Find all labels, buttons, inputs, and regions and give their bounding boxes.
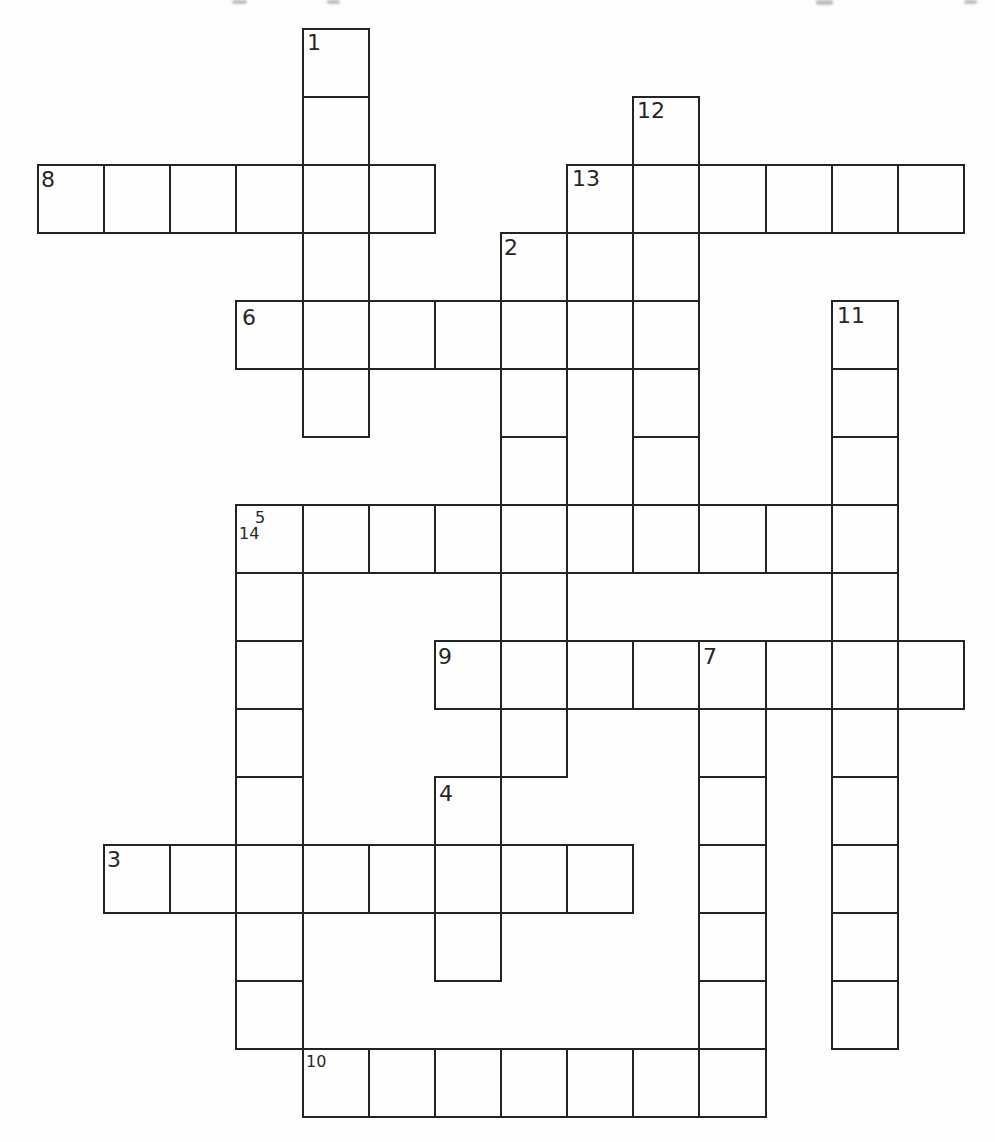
grid-cell-c10-r14[interactable] bbox=[698, 980, 767, 1050]
grid-cell-c12-r9[interactable] bbox=[831, 640, 899, 710]
grid-cell-c8-r15[interactable] bbox=[566, 1048, 634, 1118]
grid-cell-c1-r2[interactable] bbox=[103, 164, 171, 234]
grid-cell-c10-r15[interactable] bbox=[698, 1048, 767, 1118]
grid-cell-c6-r13[interactable] bbox=[434, 912, 502, 982]
grid-cell-c7-r12[interactable] bbox=[500, 844, 568, 914]
crossword-page: 1234567891011121314 bbox=[0, 0, 995, 1142]
grid-cell-c4-r2[interactable] bbox=[302, 164, 370, 234]
grid-cell-c3-r2[interactable] bbox=[235, 164, 304, 234]
grid-cell-c9-r2[interactable] bbox=[632, 164, 700, 234]
grid-cell-c4-r7[interactable] bbox=[302, 504, 370, 574]
grid-cell-c12-r2[interactable] bbox=[831, 164, 899, 234]
grid-cell-c7-r6[interactable] bbox=[500, 436, 568, 506]
clue-number-8: 8 bbox=[41, 169, 55, 191]
grid-cell-c12-r11[interactable] bbox=[831, 776, 899, 846]
grid-cell-c12-r12[interactable] bbox=[831, 844, 899, 914]
grid-cell-c5-r2[interactable] bbox=[368, 164, 436, 234]
grid-cell-c3-r9[interactable] bbox=[235, 640, 304, 710]
grid-cell-c12-r5[interactable] bbox=[831, 368, 899, 438]
grid-cell-c8-r12[interactable] bbox=[566, 844, 634, 914]
grid-cell-c9-r4[interactable] bbox=[632, 300, 700, 370]
grid-cell-c12-r7[interactable] bbox=[831, 504, 899, 574]
clue-number-3: 3 bbox=[107, 849, 121, 871]
grid-cell-c6-r4[interactable] bbox=[434, 300, 502, 370]
grid-cell-c13-r9[interactable] bbox=[897, 640, 965, 710]
grid-cell-c12-r14[interactable] bbox=[831, 980, 899, 1050]
grid-cell-c10-r2[interactable] bbox=[698, 164, 767, 234]
grid-cell-c8-r4[interactable] bbox=[566, 300, 634, 370]
grid-cell-c11-r7[interactable] bbox=[765, 504, 833, 574]
grid-cell-c7-r10[interactable] bbox=[500, 708, 568, 778]
scan-artifact-1 bbox=[232, 0, 247, 4]
grid-cell-c10-r10[interactable] bbox=[698, 708, 767, 778]
clue-number-2: 2 bbox=[504, 237, 518, 259]
scan-artifact-2 bbox=[327, 0, 340, 4]
clue-number-9: 9 bbox=[438, 646, 452, 668]
grid-cell-c8-r7[interactable] bbox=[566, 504, 634, 574]
grid-cell-c12-r6[interactable] bbox=[831, 436, 899, 506]
grid-cell-c9-r5[interactable] bbox=[632, 368, 700, 438]
grid-cell-c7-r15[interactable] bbox=[500, 1048, 568, 1118]
clue-number-11: 11 bbox=[837, 305, 865, 327]
grid-cell-c9-r6[interactable] bbox=[632, 436, 700, 506]
grid-cell-c6-r7[interactable] bbox=[434, 504, 502, 574]
grid-cell-c3-r11[interactable] bbox=[235, 776, 304, 846]
grid-cell-c6-r15[interactable] bbox=[434, 1048, 502, 1118]
grid-cell-c3-r13[interactable] bbox=[235, 912, 304, 982]
grid-cell-c5-r7[interactable] bbox=[368, 504, 436, 574]
scan-artifact-4 bbox=[964, 0, 977, 4]
grid-cell-c13-r2[interactable] bbox=[897, 164, 965, 234]
grid-cell-c12-r8[interactable] bbox=[831, 572, 899, 642]
grid-cell-c8-r9[interactable] bbox=[566, 640, 634, 710]
clue-number-14: 14 bbox=[239, 526, 259, 542]
grid-cell-c4-r1[interactable] bbox=[302, 96, 370, 166]
grid-cell-c12-r10[interactable] bbox=[831, 708, 899, 778]
grid-cell-c3-r8[interactable] bbox=[235, 572, 304, 642]
grid-cell-c9-r7[interactable] bbox=[632, 504, 700, 574]
grid-cell-c10-r12[interactable] bbox=[698, 844, 767, 914]
clue-number-10: 10 bbox=[306, 1054, 326, 1070]
grid-cell-c9-r9[interactable] bbox=[632, 640, 700, 710]
grid-cell-c10-r11[interactable] bbox=[698, 776, 767, 846]
grid-cell-c12-r13[interactable] bbox=[831, 912, 899, 982]
grid-cell-c6-r12[interactable] bbox=[434, 844, 502, 914]
grid-cell-c4-r4[interactable] bbox=[302, 300, 370, 370]
clue-number-1: 1 bbox=[307, 32, 321, 54]
grid-cell-c7-r5[interactable] bbox=[500, 368, 568, 438]
grid-cell-c5-r4[interactable] bbox=[368, 300, 436, 370]
grid-cell-c7-r9[interactable] bbox=[500, 640, 568, 710]
grid-cell-c4-r5[interactable] bbox=[302, 368, 370, 438]
grid-cell-c2-r12[interactable] bbox=[169, 844, 237, 914]
clue-number-6: 6 bbox=[242, 307, 256, 329]
grid-cell-c9-r15[interactable] bbox=[632, 1048, 700, 1118]
clue-number-7: 7 bbox=[703, 646, 717, 668]
grid-cell-c10-r7[interactable] bbox=[698, 504, 767, 574]
grid-cell-c4-r3[interactable] bbox=[302, 232, 370, 302]
grid-cell-c7-r8[interactable] bbox=[500, 572, 568, 642]
clue-number-12: 12 bbox=[637, 100, 665, 122]
grid-cell-c3-r10[interactable] bbox=[235, 708, 304, 778]
grid-cell-c5-r15[interactable] bbox=[368, 1048, 436, 1118]
grid-cell-c11-r2[interactable] bbox=[765, 164, 833, 234]
grid-cell-c11-r9[interactable] bbox=[765, 640, 833, 710]
grid-cell-c2-r2[interactable] bbox=[169, 164, 237, 234]
scan-artifact-3 bbox=[816, 0, 833, 5]
grid-cell-c4-r12[interactable] bbox=[302, 844, 370, 914]
grid-cell-c10-r13[interactable] bbox=[698, 912, 767, 982]
clue-number-13: 13 bbox=[572, 168, 600, 190]
grid-cell-c7-r7[interactable] bbox=[500, 504, 568, 574]
clue-number-4: 4 bbox=[439, 783, 453, 805]
grid-cell-c7-r4[interactable] bbox=[500, 300, 568, 370]
grid-cell-c3-r12[interactable] bbox=[235, 844, 304, 914]
grid-cell-c5-r12[interactable] bbox=[368, 844, 436, 914]
grid-cell-c3-r14[interactable] bbox=[235, 980, 304, 1050]
grid-cell-c9-r3[interactable] bbox=[632, 232, 700, 302]
